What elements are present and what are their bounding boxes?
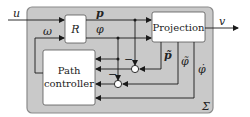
- signal-u-label: u: [13, 7, 20, 20]
- path-controller-label-1: Path: [58, 65, 81, 76]
- junction-dot-p: [134, 19, 137, 22]
- signal-phi-label: φ: [96, 23, 104, 36]
- junction-dot-phi-2: [117, 58, 120, 61]
- minus-sign-1: −: [124, 53, 133, 66]
- system-sigma-label: Σ: [201, 100, 210, 113]
- signal-omega-label: ω: [43, 25, 52, 38]
- projection-block-label: Projection: [153, 22, 205, 33]
- summing-junction-2: [114, 80, 121, 87]
- signal-phi-tilde-label: φ̃: [181, 55, 189, 68]
- block-diagram: R Projection Path controller u v ω p φ p…: [0, 0, 250, 117]
- signal-v-label: v: [219, 15, 226, 28]
- signal-p-tilde-label: p̃: [164, 49, 172, 62]
- minus-sign-2: −: [108, 68, 117, 81]
- summing-junction-1: [131, 65, 138, 72]
- junction-dot-phi: [117, 37, 120, 40]
- r-block-label: R: [70, 23, 79, 36]
- path-controller-label-2: controller: [44, 78, 94, 89]
- signal-p-label: p: [96, 7, 104, 20]
- signal-phi-dot-label: φ̇: [198, 63, 206, 76]
